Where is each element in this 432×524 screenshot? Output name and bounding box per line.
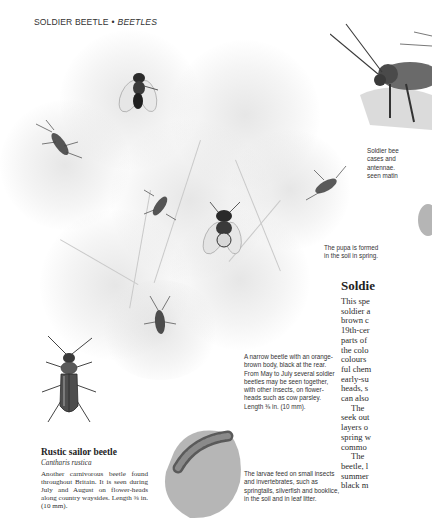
caption-line: in the soil in spring. <box>324 252 432 260</box>
article-title: Soldie <box>341 278 375 294</box>
caption-line: The larvae feed on small insects <box>244 470 354 478</box>
soldier-beetle-small-4 <box>140 294 180 344</box>
soldier-beetle-small-2 <box>140 186 180 226</box>
caption-pupa: The pupa is formed in the soil in spring… <box>324 244 432 261</box>
article-paragraph-2: The seek out layers o spring w commo <box>341 404 432 453</box>
caption-line: Soldier bee <box>367 147 432 155</box>
caption-line: cases and <box>367 155 432 163</box>
article-body: This spe soldier a brown c 19th-cer part… <box>341 297 432 491</box>
soldier-beetle-side-view <box>330 10 432 130</box>
caption-line: The pupa is formed <box>324 244 432 252</box>
caption-larva: The larvae feed on small insects and inv… <box>244 470 354 503</box>
running-header-separator: • <box>111 17 114 27</box>
rustic-sailor-beetle-illustration <box>34 334 104 429</box>
running-header: SOLDIER BEETLE•BEETLES <box>34 17 157 27</box>
pupa-illustration <box>408 200 432 240</box>
species-latin-name: Cantharis rustica <box>41 459 92 467</box>
caption-line: springtails, silverfish and booklice, <box>244 487 354 495</box>
species-description: Another carnivorous beetle found through… <box>41 470 148 510</box>
article-line: black m <box>341 481 432 491</box>
soldier-beetle-small-3 <box>298 162 348 206</box>
species-common-name: Rustic sailor beetle <box>41 447 117 457</box>
caption-line: antennae. <box>367 164 432 172</box>
running-header-title: SOLDIER BEETLE <box>34 17 108 27</box>
larva-illustration <box>160 422 245 522</box>
hoverfly-illustration <box>118 64 162 120</box>
caption-line: and invertebrates, such as <box>244 478 354 486</box>
caption-line: in the soil and in leaf litter. <box>244 495 354 503</box>
caption-line: seen matin <box>367 172 432 180</box>
article-paragraph-3: The beetle, l summer black m <box>341 452 432 491</box>
caption-adult-side: Soldier bee cases and antennae. seen mat… <box>367 147 432 180</box>
running-header-section: BEETLES <box>118 17 157 27</box>
article-paragraph-1: This spe soldier a brown c 19th-cer part… <box>341 297 432 404</box>
soldier-beetle-small-1 <box>32 120 88 166</box>
fly-illustration <box>200 200 250 260</box>
